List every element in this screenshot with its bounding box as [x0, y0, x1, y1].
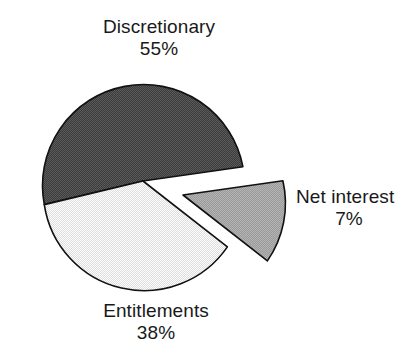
pie-label-discretionary-name: Discretionary: [0, 16, 318, 38]
pie-label-entitlements: Entitlements 38%: [0, 300, 312, 345]
pie-label-net-interest: Net interest 7%: [296, 186, 414, 231]
pie-label-entitlements-value: 38%: [0, 322, 312, 344]
pie-label-discretionary: Discretionary 55%: [0, 16, 318, 61]
pie-chart: Discretionary 55% Entitlements 38% Net i…: [0, 0, 414, 362]
pie-label-entitlements-name: Entitlements: [0, 300, 312, 322]
pie-label-net-interest-name: Net interest: [296, 186, 414, 208]
pie-label-discretionary-value: 55%: [0, 38, 318, 60]
pie-label-net-interest-value: 7%: [296, 208, 402, 230]
